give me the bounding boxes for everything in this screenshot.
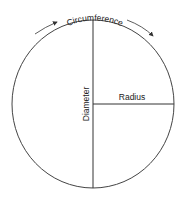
arrow-left-icon: [35, 22, 57, 34]
arrow-right-icon: [127, 20, 153, 36]
circle-diagram: Circumference Radius Diameter: [0, 0, 184, 198]
circumference-label: Circumference: [65, 12, 125, 28]
diameter-label: Diameter: [81, 87, 91, 122]
radius-label: Radius: [119, 92, 145, 102]
